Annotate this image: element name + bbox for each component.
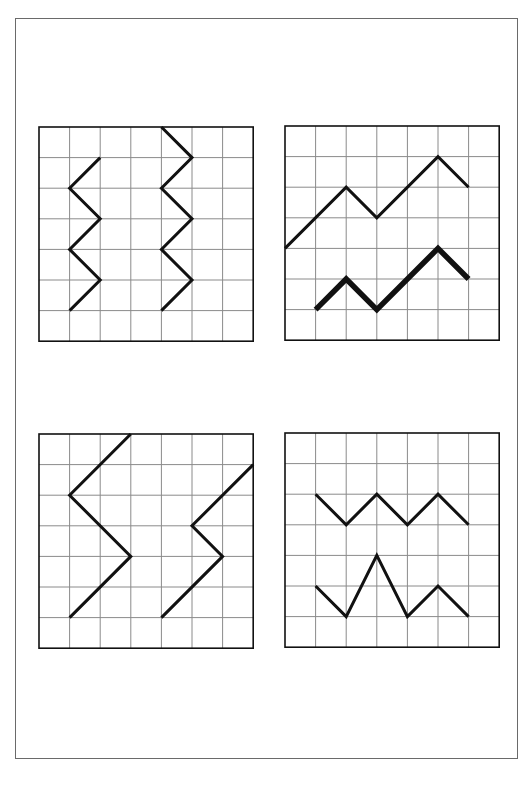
grid-svg	[39, 434, 253, 648]
grid-svg	[285, 433, 499, 647]
left-zigzag-path	[70, 158, 101, 311]
grid-panel-top-right	[285, 126, 500, 344]
right-zigzag-path	[161, 465, 253, 618]
grid-panel-bottom-right	[285, 433, 500, 651]
grid-svg	[39, 127, 253, 341]
grid-panel-bottom-left	[39, 434, 254, 652]
upper-zigzag-path	[316, 494, 469, 525]
grid-panel-top-left	[39, 127, 254, 345]
grid-svg	[285, 126, 499, 340]
